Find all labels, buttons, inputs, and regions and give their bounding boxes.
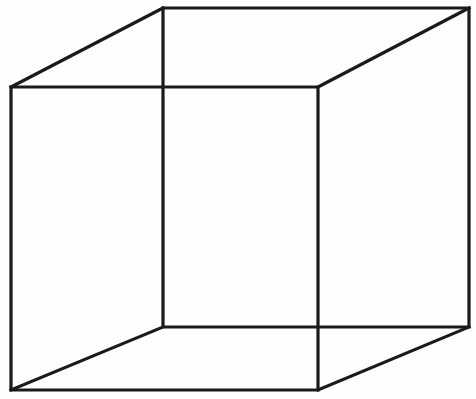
cube-edge-connector-bottom-left (11, 327, 163, 390)
cube-edge-connector-top-left (11, 8, 163, 87)
necker-cube-drawing (0, 0, 476, 399)
figure-canvas (0, 0, 476, 399)
cube-edge-connector-top-right (318, 8, 469, 87)
cube-edge-back-face (163, 8, 469, 327)
cube-edge-connector-bottom-right (318, 327, 469, 390)
